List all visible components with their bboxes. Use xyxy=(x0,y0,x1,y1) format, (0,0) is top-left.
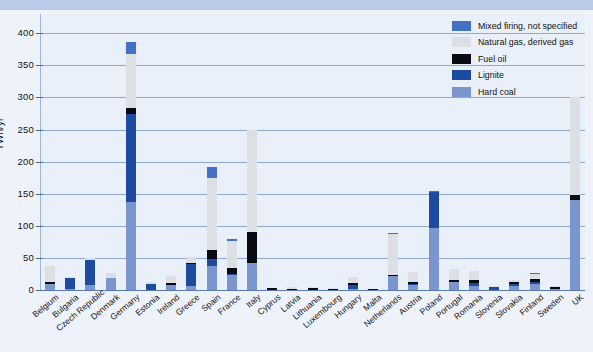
bar-segment-fuel-oil xyxy=(126,108,136,113)
bar-segment-hard-coal xyxy=(45,284,55,290)
bar-romania[interactable] xyxy=(469,271,479,290)
bar-germany[interactable] xyxy=(126,42,136,290)
bar-segment-natural-gas-derived-gas xyxy=(85,258,95,260)
bar-segment-fuel-oil xyxy=(45,282,55,283)
axis-baseline xyxy=(40,290,585,291)
bar-segment-natural-gas-derived-gas xyxy=(408,272,418,282)
legend-item-natural-gas-derived-gas[interactable]: Natural gas, derived gas xyxy=(452,35,588,50)
bar-segment-fuel-oil xyxy=(207,250,217,258)
bar-segment-mixed-firing-not-specified xyxy=(227,239,237,240)
y-axis-label: TWh/yr xyxy=(0,118,5,150)
bar-italy[interactable] xyxy=(247,130,257,290)
legend-swatch-icon xyxy=(452,37,471,47)
y-tick-label: 150 xyxy=(0,188,34,199)
bar-denmark[interactable] xyxy=(106,273,116,290)
bar-lithuania[interactable] xyxy=(308,287,318,290)
bar-segment-hard-coal xyxy=(408,285,418,290)
bar-finland[interactable] xyxy=(530,273,540,290)
bar-segment-hard-coal xyxy=(469,286,479,290)
bar-segment-lignite xyxy=(227,274,237,275)
legend-item-mixed-firing-not-specified[interactable]: Mixed firing, not specified xyxy=(452,18,588,33)
bar-segment-fuel-oil xyxy=(186,263,196,264)
bar-segment-fuel-oil xyxy=(449,280,459,283)
bar-segment-natural-gas-derived-gas xyxy=(106,273,116,279)
legend-label: Hard coal xyxy=(478,87,516,97)
bar-segment-fuel-oil xyxy=(166,283,176,285)
bar-hungary[interactable] xyxy=(348,277,358,290)
bar-segment-fuel-oil xyxy=(247,232,257,263)
bar-segment-fuel-oil xyxy=(267,288,277,290)
bar-segment-lignite xyxy=(186,264,196,286)
bar-segment-hard-coal xyxy=(348,289,358,290)
bar-segment-hard-coal xyxy=(227,275,237,290)
bar-cyprus[interactable] xyxy=(267,288,277,290)
bar-slovenia[interactable] xyxy=(489,286,499,290)
bar-segment-natural-gas-derived-gas xyxy=(227,241,237,268)
bar-portugal[interactable] xyxy=(449,269,459,290)
bar-segment-mixed-firing-not-specified xyxy=(126,42,136,54)
top-band xyxy=(0,0,593,10)
bar-segment-mixed-firing-not-specified xyxy=(429,191,439,193)
bar-belgium[interactable] xyxy=(45,266,55,290)
bar-spain[interactable] xyxy=(207,167,217,290)
bar-greece[interactable] xyxy=(186,257,196,290)
bar-uk[interactable] xyxy=(570,97,580,290)
bar-segment-natural-gas-derived-gas xyxy=(570,97,580,195)
legend-swatch-icon xyxy=(452,21,471,31)
bar-latvia[interactable] xyxy=(287,287,297,290)
bar-poland[interactable] xyxy=(429,191,439,290)
bar-sweden[interactable] xyxy=(550,286,560,290)
legend-label: Mixed firing, not specified xyxy=(478,21,577,31)
legend-item-lignite[interactable]: Lignite xyxy=(452,68,588,83)
bar-segment-mixed-firing-not-specified xyxy=(388,233,398,234)
legend-item-fuel-oil[interactable]: Fuel oil xyxy=(452,51,588,66)
bar-segment-fuel-oil xyxy=(308,288,318,290)
bar-segment-lignite xyxy=(126,114,136,203)
bar-segment-natural-gas-derived-gas xyxy=(126,54,136,109)
bar-segment-hard-coal xyxy=(186,286,196,290)
bar-slovakia[interactable] xyxy=(509,280,519,290)
y-tick-label: 0 xyxy=(0,284,34,295)
bar-france[interactable] xyxy=(227,240,237,290)
bar-segment-hard-coal xyxy=(106,278,116,290)
bar-malta[interactable] xyxy=(368,289,378,290)
bar-segment-fuel-oil xyxy=(408,282,418,283)
bar-segment-hard-coal xyxy=(207,266,217,290)
y-tick-label: 250 xyxy=(0,124,34,135)
legend-item-hard-coal[interactable]: Hard coal xyxy=(452,84,588,99)
bar-segment-natural-gas-derived-gas xyxy=(287,287,297,288)
bar-segment-lignite xyxy=(509,284,519,287)
bar-segment-lignite xyxy=(489,287,499,290)
bar-czech-republic[interactable] xyxy=(85,258,95,290)
x-axis-labels: BelgiumBulgariaCzech RepublicDenmarkGerm… xyxy=(40,292,585,352)
bar-segment-natural-gas-derived-gas xyxy=(530,274,540,279)
chart-figure: 050100150200250300350400 TWh/yr BelgiumB… xyxy=(0,0,593,352)
y-tick-label: 400 xyxy=(0,27,34,38)
bar-segment-lignite xyxy=(429,192,439,227)
bar-luxembourg[interactable] xyxy=(328,288,338,290)
bar-segment-natural-gas-derived-gas xyxy=(348,277,358,283)
bar-segment-natural-gas-derived-gas xyxy=(146,282,156,283)
bar-segment-hard-coal xyxy=(550,289,560,290)
bar-segment-fuel-oil xyxy=(368,289,378,290)
bar-austria[interactable] xyxy=(408,272,418,290)
y-tick-label: 350 xyxy=(0,59,34,70)
bar-segment-natural-gas-derived-gas xyxy=(308,287,318,288)
bar-segment-mixed-firing-not-specified xyxy=(207,167,217,179)
bar-segment-lignite xyxy=(65,278,75,288)
bar-bulgaria[interactable] xyxy=(65,277,75,290)
bar-ireland[interactable] xyxy=(166,276,176,290)
bar-segment-fuel-oil xyxy=(530,279,540,282)
bar-segment-lignite xyxy=(348,285,358,289)
y-tick-label: 200 xyxy=(0,156,34,167)
bar-netherlands[interactable] xyxy=(388,234,398,290)
bar-segment-fuel-oil xyxy=(287,289,297,290)
bar-segment-natural-gas-derived-gas xyxy=(550,286,560,287)
bar-segment-hard-coal xyxy=(166,285,176,290)
bar-estonia[interactable] xyxy=(146,282,156,290)
y-tick-label: 300 xyxy=(0,91,34,102)
bar-segment-hard-coal xyxy=(65,289,75,290)
bar-segment-natural-gas-derived-gas xyxy=(328,288,338,289)
bar-segment-hard-coal xyxy=(85,285,95,290)
chart-legend: Mixed firing, not specifiedNatural gas, … xyxy=(452,18,588,101)
